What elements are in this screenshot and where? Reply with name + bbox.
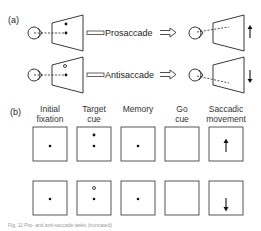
eye-icon xyxy=(189,27,203,39)
header-saccadic-l2: movement xyxy=(206,114,246,124)
fixation-dot xyxy=(137,145,140,148)
target-dot-open xyxy=(93,187,96,190)
header-target-l1: Target xyxy=(82,104,106,114)
frame-memory xyxy=(121,127,155,161)
antisaccade-label: Antisaccade xyxy=(105,70,154,80)
target-dot-filled xyxy=(93,134,96,137)
fixation-dot xyxy=(137,198,140,201)
fixation-dot xyxy=(65,32,68,35)
header-saccadic-l1: Saccadic xyxy=(209,104,244,114)
frame-initial-fixation xyxy=(33,127,67,161)
fixation-dot xyxy=(93,198,96,201)
frame-go-cue xyxy=(165,181,199,215)
sequence-row-prosaccade xyxy=(33,127,243,161)
screen-icon xyxy=(213,15,244,51)
arrow-down-icon xyxy=(224,198,229,212)
header-target-l2: cue xyxy=(87,114,101,124)
antisaccade-row: Antisaccade xyxy=(28,57,253,93)
target-dot-filled xyxy=(65,23,68,26)
arrow-up-icon xyxy=(224,139,229,153)
arrow-shaft-icon xyxy=(87,31,104,35)
prosaccade-row: Prosaccade xyxy=(28,15,253,51)
double-arrow-icon xyxy=(160,28,176,37)
fixation-dot xyxy=(93,145,96,148)
sequence-row-antisaccade xyxy=(33,181,243,215)
header-initial-l2: fixation xyxy=(37,114,64,124)
figure-caption: Fig. 11 Pro- and anti-saccade tasks (tru… xyxy=(8,222,112,228)
frame-target-cue xyxy=(77,127,111,161)
header-initial-l1: Initial xyxy=(40,104,60,114)
header-go-l1: Go xyxy=(176,104,188,114)
header-memory: Memory xyxy=(123,104,154,114)
arrow-shaft-icon xyxy=(87,73,104,77)
target-dot-open xyxy=(64,65,67,68)
screen-icon xyxy=(213,57,244,93)
fixation-dot xyxy=(49,198,52,201)
arrow-up-icon xyxy=(248,25,253,38)
double-arrow-icon xyxy=(160,70,176,79)
prosaccade-label: Prosaccade xyxy=(105,28,153,38)
fixation-dot xyxy=(65,74,68,77)
arrow-down-icon xyxy=(248,70,253,83)
column-headers: Initial fixation Target cue Memory Go cu… xyxy=(37,104,247,124)
saccade-diagram: (a) Prosaccade xyxy=(0,0,261,231)
panel-b-label: (b) xyxy=(10,107,21,117)
header-go-l2: cue xyxy=(175,114,189,124)
fixation-dot xyxy=(49,145,52,148)
frame-go-cue xyxy=(165,127,199,161)
eye-icon xyxy=(189,69,203,81)
panel-a-label: (a) xyxy=(8,15,19,25)
